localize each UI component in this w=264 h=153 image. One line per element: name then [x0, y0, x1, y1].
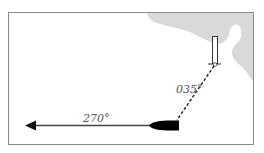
transit-bearing-label: 035°: [176, 83, 203, 96]
transit-marker-icon: [213, 37, 218, 64]
arrow-head-icon: [25, 121, 36, 131]
navigation-diagram: 035° 270°: [0, 0, 264, 153]
vessel-icon: [149, 120, 179, 130]
land-mass: [147, 12, 254, 82]
course-bearing-label: 270°: [82, 112, 110, 125]
